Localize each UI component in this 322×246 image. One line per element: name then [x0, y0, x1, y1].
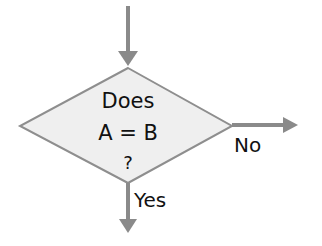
yes-branch-label: Yes: [134, 190, 166, 210]
decision-text-line-1: Does: [28, 91, 228, 112]
decision-text-line-3: ?: [28, 154, 228, 172]
incoming-arrow: [118, 6, 138, 66]
decision-text-line-2: A = B: [28, 123, 228, 144]
no-branch-arrow: [232, 117, 298, 133]
no-branch-label: No: [234, 135, 261, 155]
